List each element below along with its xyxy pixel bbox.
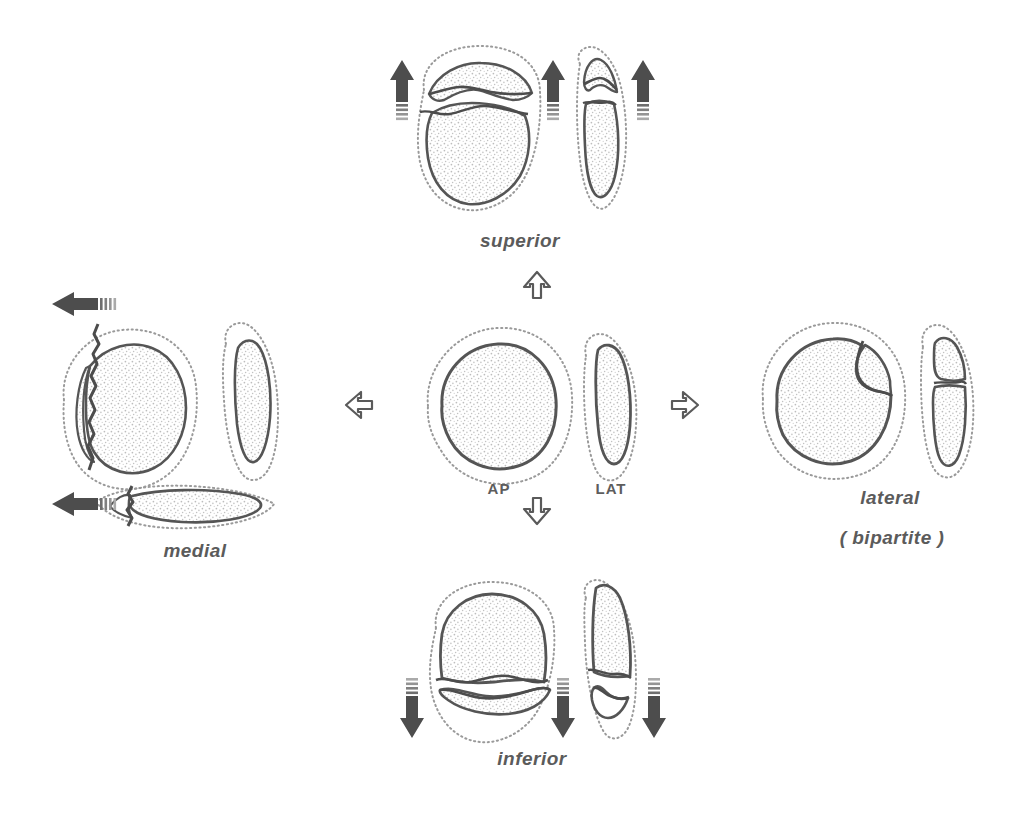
superior-ap-view (418, 46, 540, 210)
direction-arrow-right (668, 388, 702, 422)
panel-sublabel-lateral: ( bipartite ) (817, 527, 967, 549)
panel-superior: superior (380, 30, 660, 230)
view-label-ap: AP (474, 480, 524, 497)
panel-center-intact: AP LAT (420, 310, 650, 510)
medial-lat-view (223, 323, 278, 480)
panel-label-superior: superior (470, 230, 570, 252)
direction-arrow-left (342, 388, 376, 422)
direction-arrow-down (520, 494, 554, 528)
lateral-ap-view (763, 323, 906, 479)
figure-root: superior (0, 0, 1022, 822)
lateral-lat-view (921, 325, 973, 477)
inferior-lat-view (584, 580, 636, 738)
panel-label-lateral: lateral (835, 487, 945, 509)
view-label-lat: LAT (586, 480, 636, 497)
displacement-arrow-up-3 (631, 60, 655, 120)
displacement-arrow-up-1 (390, 60, 414, 120)
medial-ap-view (64, 324, 197, 489)
displacement-arrow-down-3 (642, 678, 666, 738)
panel-lateral: lateral ( bipartite ) (745, 305, 1005, 505)
displacement-arrow-down-2 (551, 678, 575, 738)
displacement-arrow-up-2 (541, 60, 565, 120)
center-lat-view (584, 334, 636, 480)
panel-medial: medial (40, 290, 340, 550)
inferior-ap-view (430, 582, 554, 742)
displacement-arrow-down-1 (400, 678, 424, 738)
superior-lat-view (577, 47, 626, 209)
panel-label-inferior: inferior (482, 748, 582, 770)
displacement-arrow-left-1 (52, 292, 116, 316)
medial-axial-view (96, 486, 274, 529)
panel-inferior: inferior (390, 570, 670, 750)
direction-arrow-up (520, 268, 554, 302)
center-ap-view (428, 328, 573, 484)
panel-label-medial: medial (140, 540, 250, 562)
